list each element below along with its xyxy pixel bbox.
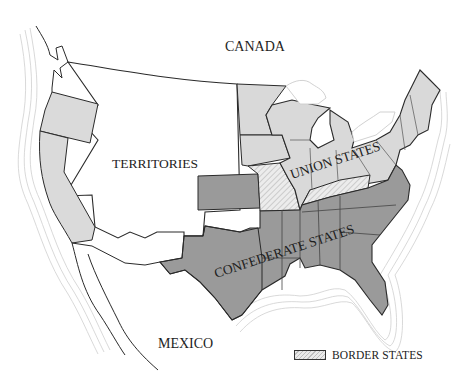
civil-war-us-map: CANADA TERRITORIES UNION STATES CONFEDER…	[0, 0, 452, 389]
label-canada: CANADA	[225, 39, 286, 54]
baja-california	[72, 243, 158, 370]
puget-sound	[36, 26, 68, 92]
legend-border-states-label: BORDER STATES	[332, 349, 423, 361]
territories-region	[64, 62, 240, 238]
legend: BORDER STATES	[294, 349, 423, 361]
label-territories: TERRITORIES	[112, 156, 198, 171]
label-mexico: MEXICO	[158, 336, 213, 351]
border-states-swatch	[294, 350, 326, 360]
mexico-border	[72, 243, 160, 265]
state-kansas	[198, 174, 260, 210]
